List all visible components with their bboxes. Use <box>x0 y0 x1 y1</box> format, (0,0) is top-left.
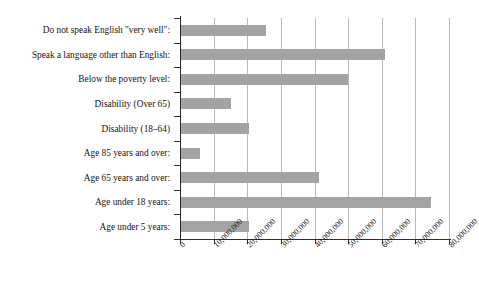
y-axis-tick <box>174 18 180 19</box>
y-axis-tick <box>174 141 180 142</box>
plot-area <box>180 18 449 239</box>
y-axis-line <box>180 16 181 240</box>
x-axis-tick <box>281 239 282 244</box>
category-label: Age under 18 years: <box>95 197 170 207</box>
category-label: Disability (Over 65) <box>95 99 170 109</box>
x-axis-tick <box>348 239 349 244</box>
y-axis-tick <box>174 190 180 191</box>
x-axis-tick <box>180 239 181 244</box>
bar <box>181 148 200 159</box>
bar <box>181 74 348 85</box>
y-axis-tick <box>174 116 180 117</box>
bar <box>181 197 431 208</box>
category-label: Do not speak English "very well": <box>43 25 170 35</box>
category-label: Below the poverty level: <box>78 74 170 84</box>
y-axis-tick <box>174 214 180 215</box>
bar <box>181 25 266 36</box>
category-label: Age 85 years and over: <box>84 148 170 158</box>
category-label: Age 65 years and over: <box>84 173 170 183</box>
x-axis-tick <box>415 239 416 244</box>
category-label: Speak a language other than English: <box>32 50 170 60</box>
category-label: Age under 5 years: <box>100 222 170 232</box>
bar <box>181 172 319 183</box>
x-axis-tick <box>247 239 248 244</box>
x-axis-tick-labels: 010,000,00020,000,00030,000,00040,000,00… <box>0 239 472 295</box>
bar <box>181 123 249 134</box>
category-axis-labels: Do not speak English "very well":Speak a… <box>0 18 176 239</box>
y-axis-tick <box>174 239 180 240</box>
x-axis-tick-label: 80,000,000 <box>447 217 479 249</box>
x-axis-tick <box>315 239 316 244</box>
y-axis-tick <box>174 43 180 44</box>
bar <box>181 49 385 60</box>
y-axis-tick <box>174 92 180 93</box>
category-label: Disability (18–64) <box>102 124 170 134</box>
x-axis-tick <box>449 239 450 244</box>
x-axis-tick <box>214 239 215 244</box>
x-axis-tick <box>382 239 383 244</box>
y-axis-tick <box>174 165 180 166</box>
y-axis-tick <box>174 67 180 68</box>
gridline <box>449 18 450 239</box>
bar <box>181 98 231 109</box>
